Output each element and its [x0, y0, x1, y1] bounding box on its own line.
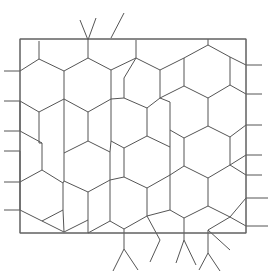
figure-root — [0, 0, 272, 273]
hexagonal-mesh-diagram — [0, 0, 272, 273]
